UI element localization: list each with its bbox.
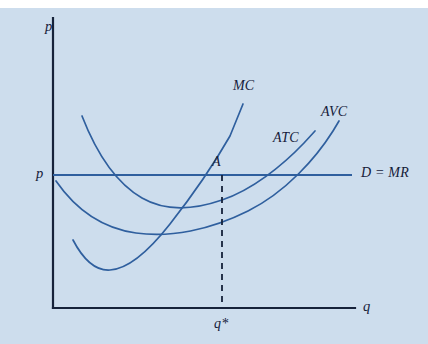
avc-curve-label: AVC bbox=[321, 105, 347, 119]
atc-curve-label: ATC bbox=[273, 131, 299, 145]
mc-curve-label: MC bbox=[233, 79, 254, 93]
x-axis-label: q bbox=[363, 299, 370, 314]
quantity-star-label: q* bbox=[214, 317, 228, 331]
economics-figure: p q p q* MC ATC AVC D = MR A bbox=[0, 0, 428, 344]
point-a-label: A bbox=[212, 155, 221, 169]
price-tick-label: p bbox=[36, 166, 43, 181]
y-axis-label: p bbox=[45, 19, 52, 34]
mc-curve bbox=[73, 104, 243, 270]
demand-line-label: D = MR bbox=[361, 166, 409, 180]
